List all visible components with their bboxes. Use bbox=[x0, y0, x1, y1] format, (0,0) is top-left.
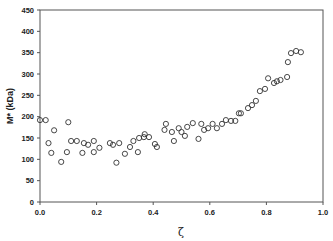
y-axis-title: M* (kDa) bbox=[5, 88, 15, 124]
x-tick-label: 0.4 bbox=[148, 208, 159, 217]
y-tick-label: 400 bbox=[21, 27, 34, 36]
y-tick-label: 350 bbox=[21, 48, 34, 57]
x-axis-title: ζ bbox=[178, 226, 184, 239]
x-tick-label: 0.6 bbox=[205, 208, 215, 217]
x-axis: 0.00.20.40.60.81.0 bbox=[35, 202, 328, 217]
y-tick-label: 150 bbox=[21, 134, 34, 143]
y-tick-label: 100 bbox=[21, 155, 34, 164]
y-tick-label: 50 bbox=[26, 176, 34, 185]
y-axis: 050100150200250300350400450 bbox=[21, 6, 40, 207]
x-tick-label: 0.0 bbox=[35, 208, 45, 217]
x-tick-label: 0.8 bbox=[261, 208, 271, 217]
y-tick-label: 0 bbox=[30, 198, 34, 207]
y-tick-label: 300 bbox=[21, 70, 34, 79]
x-tick-label: 0.2 bbox=[91, 208, 101, 217]
y-tick-label: 450 bbox=[21, 6, 34, 15]
y-tick-label: 200 bbox=[21, 112, 34, 121]
x-tick-label: 1.0 bbox=[318, 208, 328, 217]
plot-frame bbox=[40, 10, 323, 202]
scatter-chart: 050100150200250300350400450 0.00.20.40.6… bbox=[0, 0, 333, 241]
y-tick-label: 250 bbox=[21, 91, 34, 100]
plot-area bbox=[40, 10, 323, 202]
